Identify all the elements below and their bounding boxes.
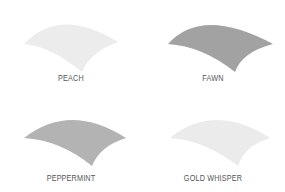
swatch-label: FAWN bbox=[153, 73, 274, 83]
swatch-label: GOLD WHISPER bbox=[153, 173, 274, 183]
swatch-peppermint[interactable]: PEPPERMINT bbox=[0, 96, 142, 192]
swatch-label: PEPPERMINT bbox=[11, 173, 132, 183]
swatch-label: PEACH bbox=[11, 73, 132, 83]
swatch-peach[interactable]: PEACH bbox=[0, 0, 142, 96]
swatch-gold-whisper[interactable]: GOLD WHISPER bbox=[142, 96, 284, 192]
swatch-fawn[interactable]: FAWN bbox=[142, 0, 284, 96]
